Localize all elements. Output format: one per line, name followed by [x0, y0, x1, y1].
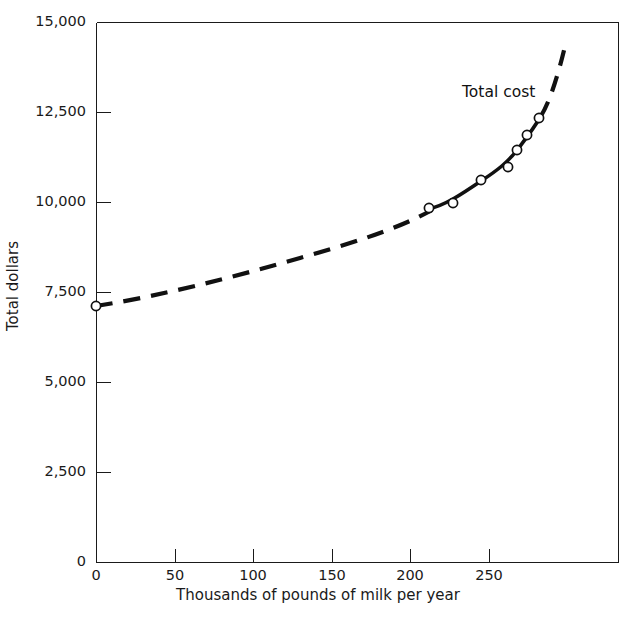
data-point [534, 113, 543, 122]
chart-plot-area [0, 0, 636, 617]
y-axis-label: Total dollars [4, 226, 22, 346]
data-point [424, 203, 433, 212]
data-point [476, 175, 485, 184]
x-tick-label-100: 100 [223, 567, 283, 583]
y-tick-label-15000: 15,000 [6, 13, 86, 29]
y-tick-label-12500: 12,500 [6, 103, 86, 119]
total-cost-annotation: Total cost [462, 83, 535, 101]
observed-data-points [91, 113, 543, 310]
x-axis-ticks [176, 549, 490, 563]
chart-figure: 15,000 12,500 10,000 7,500 5,000 2,500 0… [0, 0, 636, 617]
y-tick-label-10000: 10,000 [6, 193, 86, 209]
y-tick-label-5000: 5,000 [6, 373, 86, 389]
data-point [522, 130, 531, 139]
y-axis-ticks [97, 23, 111, 473]
data-point [91, 301, 100, 310]
x-tick-label-250: 250 [459, 567, 519, 583]
x-tick-label-200: 200 [380, 567, 440, 583]
data-point [448, 198, 457, 207]
x-tick-label-150: 150 [302, 567, 362, 583]
data-point [503, 162, 512, 171]
total-cost-solid [428, 116, 541, 209]
x-tick-label-50: 50 [145, 567, 205, 583]
total-cost-dashed-left [96, 210, 432, 306]
axes-frame [97, 23, 619, 563]
y-tick-label-2500: 2,500 [6, 463, 86, 479]
data-point [512, 145, 521, 154]
x-axis-label: Thousands of pounds of milk per year [0, 586, 636, 604]
x-tick-label-0: 0 [66, 567, 126, 583]
total-cost-dashed-right [541, 42, 566, 116]
